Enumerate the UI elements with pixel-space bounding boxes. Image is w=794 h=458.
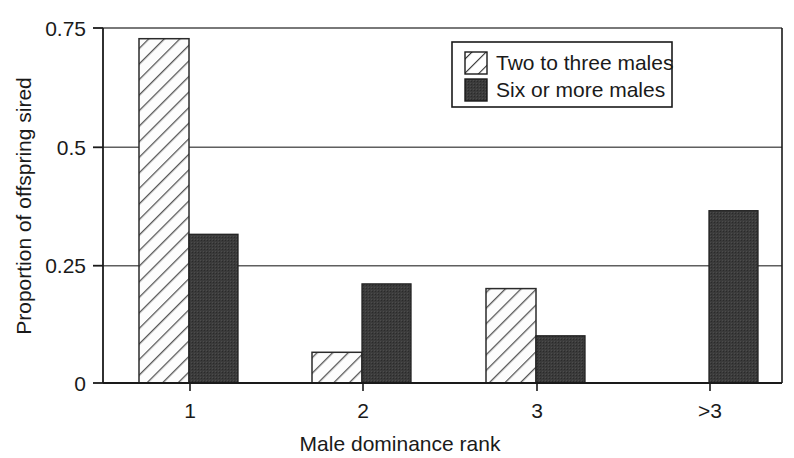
x-axis-title: Male dominance rank [300, 432, 501, 455]
legend-label-two-to-three-males: Two to three males [496, 51, 673, 74]
x-category-label-gt3: >3 [698, 399, 722, 422]
bar-group-rank-gt3 [709, 211, 758, 383]
bar-chart: 0.75 0.5 0.25 0 Proportion of offspring … [0, 0, 794, 458]
y-tick-label-050: 0.5 [57, 136, 86, 159]
legend-label-six-or-more-males: Six or more males [496, 78, 665, 101]
x-category-label-3: 3 [531, 399, 543, 422]
bar-two-to-three-males-rank-1 [139, 39, 189, 383]
y-tick-label-025: 0.25 [45, 254, 86, 277]
y-axis-title: Proportion of offspring sired [12, 77, 35, 335]
x-category-label-1: 1 [184, 399, 196, 422]
legend-swatch-two-to-three-males [465, 52, 487, 74]
bar-six-or-more-males-rank-gt3 [709, 211, 758, 383]
y-tick-label-000: 0 [74, 372, 86, 395]
bar-two-to-three-males-rank-2 [312, 352, 362, 383]
y-tick-label-075: 0.75 [45, 17, 86, 40]
legend-swatch-six-or-more-males [465, 79, 487, 101]
x-category-label-2: 2 [357, 399, 369, 422]
bar-six-or-more-males-rank-3 [536, 336, 585, 383]
bar-six-or-more-males-rank-2 [362, 284, 411, 383]
y-tick-marks [93, 28, 103, 383]
bar-six-or-more-males-rank-1 [189, 234, 238, 383]
bar-two-to-three-males-rank-3 [486, 289, 536, 383]
x-tick-marks [190, 383, 710, 391]
chart-container: 0.75 0.5 0.25 0 Proportion of offspring … [0, 0, 794, 458]
legend: Two to three males Six or more males [452, 42, 673, 107]
